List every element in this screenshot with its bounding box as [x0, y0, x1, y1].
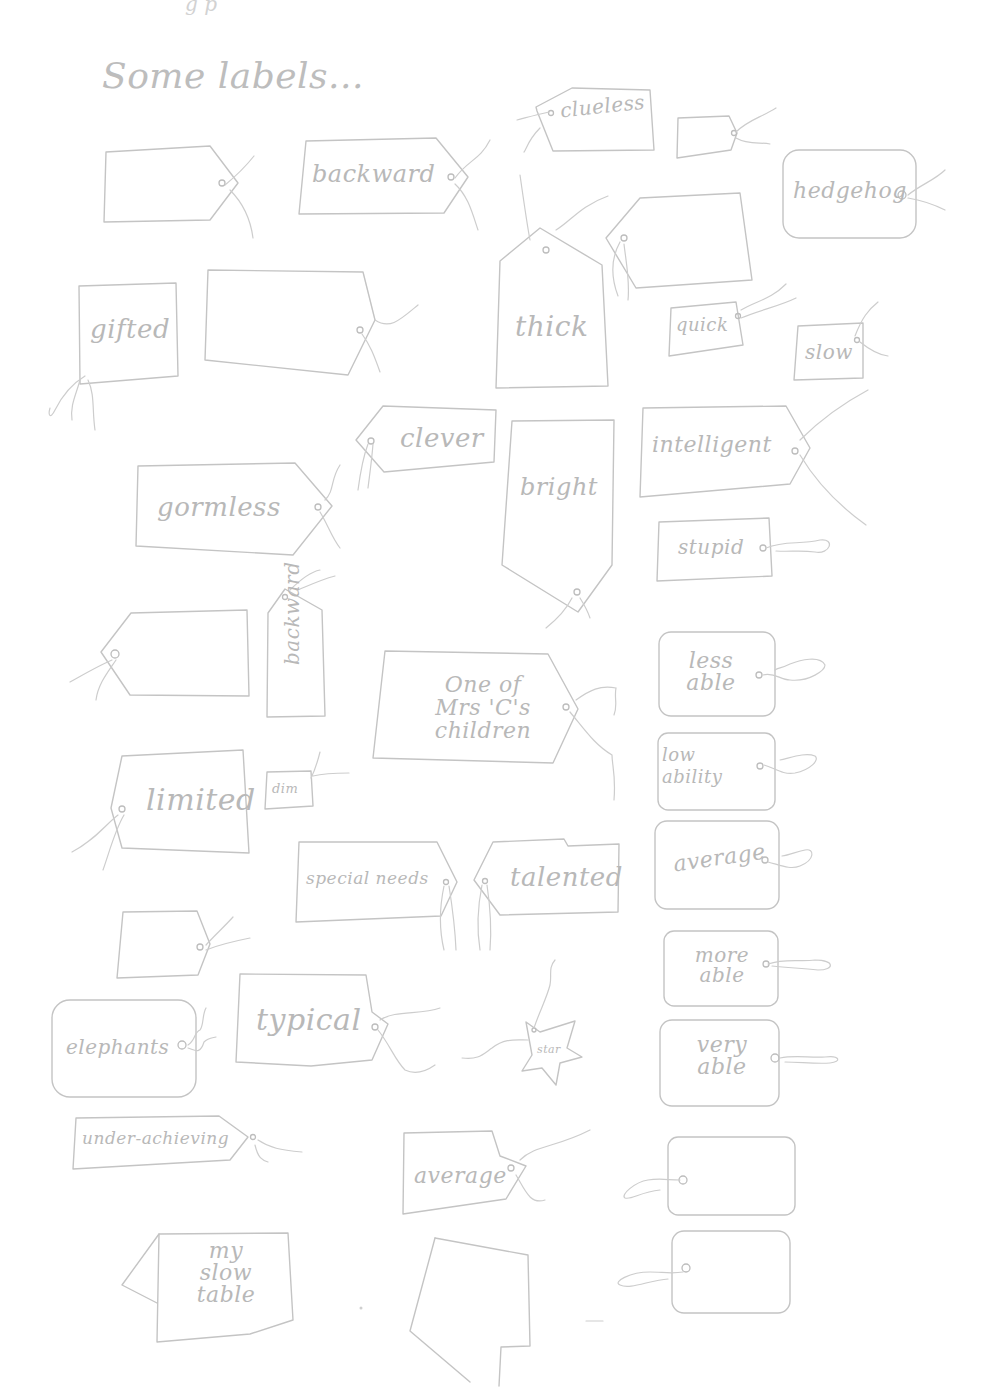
tag-shape-blank-3: [606, 193, 752, 300]
tag-label-special-needs: special needs: [306, 870, 429, 887]
tag-shape-blank-tent-card: [410, 1238, 530, 1386]
tag-shape-star: [462, 960, 582, 1085]
tag-label-talented: talented: [510, 864, 623, 890]
tag-shape-intelligent: [640, 390, 868, 525]
tag-label-hedgehog: hedgehog: [793, 180, 907, 202]
tag-label-star: star: [537, 1044, 561, 1055]
tag-label-limited: limited: [146, 785, 256, 815]
tag-label-elephants: elephants: [66, 1037, 169, 1057]
tag-shape-blank-1: [104, 146, 254, 238]
tag-shape-special-needs: [296, 842, 457, 950]
tag-label-my-slow-table: my slow table: [186, 1240, 266, 1306]
tag-shape-blank-8: [618, 1231, 790, 1313]
tag-label-gormless: gormless: [157, 494, 281, 520]
tag-label-slow: slow: [805, 342, 853, 362]
tag-label-more-able: more able: [690, 945, 754, 985]
tag-label-gifted: gifted: [90, 316, 170, 342]
tag-label-low-ability: low ability: [662, 744, 752, 787]
tag-shape-blank-2: [677, 108, 776, 158]
tag-label-bright: bright: [520, 475, 598, 499]
tag-label-quick: quick: [676, 316, 728, 334]
tag-label-under-achieving: under-achieving: [82, 1130, 229, 1147]
tag-shape-blank-4: [205, 270, 418, 375]
stray-dot: [360, 1307, 363, 1310]
tag-shape-talented: [474, 839, 619, 950]
tag-label-average-2: average: [414, 1165, 507, 1187]
tag-shape-blank-5: [70, 610, 249, 700]
tag-label-intelligent: intelligent: [652, 434, 772, 456]
tag-shape-thick: [496, 175, 608, 388]
tag-shape-blank-6: [117, 911, 250, 978]
tag-label-backward-1: backward: [312, 162, 435, 186]
tag-shape-blank-7: [624, 1137, 795, 1215]
tag-shape-gifted: [49, 283, 178, 430]
tag-label-typical: typical: [256, 1005, 362, 1035]
tag-label-less-able: less able: [686, 650, 736, 694]
tag-label-stupid: stupid: [678, 537, 744, 557]
tag-label-dim: dim: [272, 782, 298, 795]
tag-label-backward-2: backward: [282, 565, 302, 665]
tag-shape-less-able: [659, 632, 825, 716]
tag-label-thick: thick: [515, 313, 588, 341]
tag-shape-bright: [502, 420, 614, 628]
tag-label-mrs-cs-children: One of Mrs 'C's children: [408, 673, 558, 742]
tag-label-clever: clever: [400, 425, 484, 451]
page-title: Some labels...: [102, 58, 364, 94]
sketch-canvas: g p: [0, 0, 981, 1391]
tag-label-very-able: very able: [682, 1034, 762, 1078]
